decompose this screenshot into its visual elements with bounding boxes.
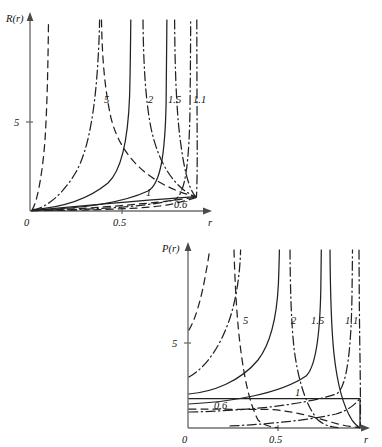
lower-curve-0p6-upper <box>189 250 210 330</box>
upper-curve-0p6 <box>32 20 49 210</box>
upper-curve-label-5: 5 <box>104 94 109 105</box>
upper-curve-5-decay <box>102 20 197 197</box>
upper-curve-2-decay <box>143 20 196 197</box>
lower-origin-label: 0 <box>182 434 188 445</box>
lower-x-axis-label: r <box>364 434 369 445</box>
upper-ytick-label-5: 5 <box>14 117 19 128</box>
upper-curve-label-1: 1 <box>146 187 151 198</box>
upper-curve-label-0p6: 0.6 <box>174 199 188 210</box>
lower-curve-1p5-riser <box>189 250 321 404</box>
lower-curve-label-1p1: 1.1 <box>345 315 358 326</box>
upper-x-axis-label: r <box>208 217 213 228</box>
lower-curve-label-0p6: 0.6 <box>214 400 228 411</box>
lower-y-axis-arrow <box>185 242 192 251</box>
lower-curve-label-5: 5 <box>243 315 248 326</box>
lower-curve-label-2: 2 <box>291 315 297 326</box>
upper-curve-label-1p5: 1.5 <box>168 94 181 105</box>
upper-curve-1p5-decay <box>175 20 196 197</box>
lower-curve-5-decay <box>234 250 278 428</box>
figure-container: R(r) r 5 0 0.5 5 2 1.5 1.1 1 0.6 <box>0 0 382 447</box>
upper-y-axis-arrow <box>27 12 34 21</box>
upper-x-axis-arrow <box>203 208 212 215</box>
upper-origin-label: 0 <box>24 217 30 228</box>
lower-y-axis-label: P(r) <box>161 243 180 255</box>
lower-x-axis-arrow <box>361 425 370 432</box>
upper-curve-5-riser <box>33 20 100 210</box>
upper-curve-1p1-decay <box>196 20 197 197</box>
lower-curve-1p5-decay <box>330 250 360 428</box>
upper-curve-label-2: 2 <box>148 94 154 105</box>
lower-plot: P(r) r 5 0 0.5 5 2 1.5 1.1 1 0.6 <box>161 242 370 445</box>
lower-curve-1p1-riser <box>189 250 353 412</box>
lower-xtick-label-05: 0.5 <box>269 434 282 445</box>
lower-curve-0p6 <box>189 409 360 428</box>
upper-plot: R(r) r 5 0 0.5 5 2 1.5 1.1 1 0.6 <box>5 12 213 228</box>
lower-curve-2-riser <box>189 250 279 394</box>
lower-ytick-label-5: 5 <box>172 338 177 349</box>
upper-curve-label-1p1: 1.1 <box>193 94 206 105</box>
lower-curve-label-1p5: 1.5 <box>311 315 324 326</box>
upper-curve-1p5-riser <box>33 20 167 210</box>
upper-y-axis-label: R(r) <box>5 13 24 25</box>
lower-curve-label-1: 1 <box>295 387 300 398</box>
upper-xtick-label-05: 0.5 <box>113 217 126 228</box>
lower-curve-low-arc <box>230 399 360 426</box>
